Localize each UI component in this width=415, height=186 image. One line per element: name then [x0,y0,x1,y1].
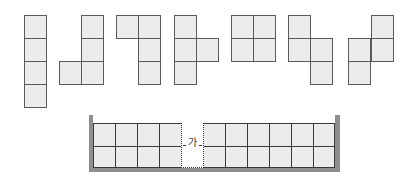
piece-cell [116,15,139,39]
board-column-divider [159,124,160,167]
piece-cell [24,61,47,85]
board-column-divider [269,124,270,167]
piece-cell [59,61,82,85]
board-grid: 가 [93,123,335,168]
piece-cell [348,38,371,62]
piece-cell [24,38,47,62]
board-column-divider [225,124,226,167]
piece-cell [81,15,104,39]
board-column-divider [291,124,292,167]
piece-cell [81,38,104,62]
gap-tick-left [183,145,186,146]
piece-cell [310,38,333,62]
board-column-divider [137,124,138,167]
piece-cell [24,84,47,108]
piece-cell [231,38,254,62]
board-column-divider [313,124,314,167]
piece-cell [174,61,197,85]
board-floor [89,168,340,172]
piece-cell [288,15,311,39]
gap-label: 가 [182,137,203,149]
piece-cell [174,38,197,62]
piece-cell [196,38,219,62]
piece-cell [174,15,197,39]
piece-cell [24,15,47,39]
piece-cell [138,61,161,85]
board-column-divider [247,124,248,167]
piece-cell [231,15,254,39]
piece-cell [253,38,276,62]
board-column-divider [115,124,116,167]
piece-cell [310,61,333,85]
piece-cell [371,15,394,39]
piece-cell [138,15,161,39]
board-row-divider [94,146,334,147]
piece-cell [371,38,394,62]
piece-cell [288,38,311,62]
board-right-wall [335,115,340,171]
piece-cell [348,61,371,85]
piece-cell [253,15,276,39]
piece-cell [81,61,104,85]
gap-tick-right [199,145,202,146]
piece-cell [138,38,161,62]
gap-column: 가 [181,123,204,168]
